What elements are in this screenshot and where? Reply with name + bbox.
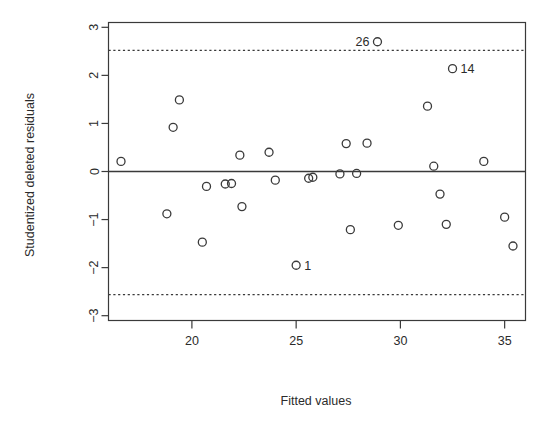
y-tick-label-1: 1 [88, 120, 102, 127]
point-label-26: 26 [356, 35, 370, 49]
y-axis-title: Studentized deleted residuals [23, 93, 37, 257]
y-tick-label-0: 0 [88, 168, 102, 175]
point-label-1: 1 [304, 259, 311, 273]
y-tick-label-2: 2 [88, 72, 102, 79]
y-tick-label--1: −1 [88, 212, 102, 226]
x-tick-label-20: 20 [185, 334, 199, 348]
x-tick-label-30: 30 [393, 334, 407, 348]
point-label-14: 14 [461, 62, 475, 76]
x-axis-title: Fitted values [281, 394, 352, 408]
y-tick-label--3: −3 [88, 309, 102, 323]
x-tick-label-35: 35 [498, 334, 512, 348]
x-tick-label-25: 25 [289, 334, 303, 348]
y-tick-label--2: −2 [88, 260, 102, 274]
y-tick-label-3: 3 [88, 24, 102, 31]
scatter-plot-canvas: 3210−1−2−3 20253035 12614 Fitted values … [0, 0, 552, 431]
residual-plot-figure: 3210−1−2−3 20253035 12614 Fitted values … [0, 0, 552, 431]
